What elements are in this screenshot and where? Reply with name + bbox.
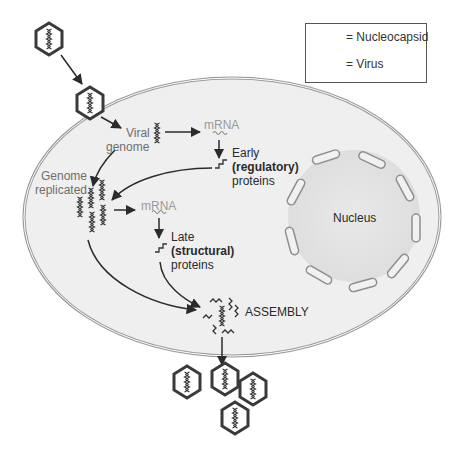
legend-nucleocapsid-label: = Nucleocapsid (346, 30, 428, 44)
genome-label: genome (106, 140, 149, 154)
legend: = Nucleocapsid = Virus (305, 23, 427, 83)
viral-replication-diagram: = Nucleocapsid = Virus Viral genome mRNA… (0, 0, 460, 455)
legend-virus-label: = Virus (346, 57, 383, 71)
nucleus-label: Nucleus (333, 211, 376, 225)
structural-label: (structural) (171, 244, 234, 258)
proteins-label-2: proteins (171, 258, 214, 272)
late-label: Late (171, 230, 194, 244)
assembly-label: ASSEMBLY (245, 305, 309, 319)
mrna-label-2: mRNA (141, 199, 176, 213)
regulatory-label: (regulatory) (232, 160, 299, 174)
mrna-label-1: mRNA (204, 118, 239, 132)
virus-icon (36, 23, 62, 55)
released-viruses (174, 363, 266, 434)
viral-label: Viral (126, 126, 150, 140)
virus-icon (77, 87, 103, 119)
early-label: Early (232, 146, 259, 160)
genome-replicated-label-2: replicated (35, 183, 87, 197)
proteins-label-1: proteins (232, 174, 275, 188)
genome-replicated-label-1: Genome (41, 169, 87, 183)
